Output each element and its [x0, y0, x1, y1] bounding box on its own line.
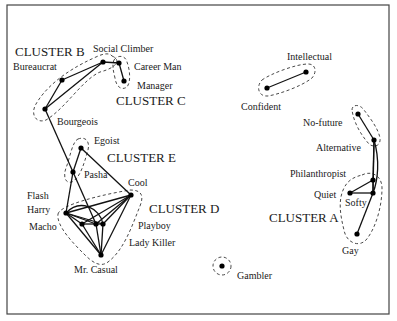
node-softy	[370, 190, 375, 195]
node-gambler	[219, 263, 224, 268]
cluster-label-cluster-a: CLUSTER A	[269, 210, 339, 225]
label-gay: Gay	[342, 245, 359, 256]
label-softy: Softy	[345, 197, 367, 208]
cluster-label-cluster-e: CLUSTER E	[107, 150, 176, 165]
cluster-label-cluster-c: CLUSTER C	[116, 93, 186, 108]
label-career-man: Career Man	[134, 61, 181, 72]
node-alternative	[371, 137, 376, 142]
node-career-man	[116, 60, 121, 65]
node-social-climber	[100, 59, 105, 64]
node-playboy	[93, 221, 98, 226]
node-no-future	[355, 111, 360, 116]
node-quiet	[347, 190, 352, 195]
edge-bureaucrat-bourgeois	[45, 80, 62, 109]
label-lady-killer: Lady Killer	[129, 237, 176, 248]
node-confident	[264, 85, 269, 90]
node-egoist	[78, 145, 83, 150]
cluster-hulls	[34, 54, 382, 275]
label-manager: Manager	[137, 80, 173, 91]
label-social-climber: Social Climber	[93, 43, 154, 54]
label-egoist: Egoist	[94, 135, 120, 146]
edge-harry-cool	[66, 195, 131, 213]
label-intellectual: Intellectual	[287, 51, 332, 62]
cluster-label-cluster-d: CLUSTER D	[149, 201, 219, 216]
label-confident: Confident	[241, 101, 281, 112]
label-cool: Cool	[128, 177, 148, 188]
label-playboy: Playboy	[138, 220, 171, 231]
edge-no-future-alternative	[358, 114, 374, 140]
node-manager	[121, 78, 126, 83]
label-harry: Harry	[27, 204, 50, 215]
node-mr-casual	[98, 252, 103, 257]
label-bourgeois: Bourgeois	[57, 116, 98, 127]
label-bureaucrat: Bureaucrat	[13, 61, 57, 72]
edge-egoist-pasha	[73, 148, 81, 172]
node-bureaucrat	[59, 77, 64, 82]
node-philanthropist	[370, 177, 375, 182]
label-philanthropist: Philanthropist	[290, 168, 346, 179]
edge-bureaucrat-social-climber	[62, 62, 103, 80]
node-pasha	[70, 169, 75, 174]
label-mr-casual: Mr. Casual	[74, 264, 118, 275]
label-pasha: Pasha	[84, 169, 108, 180]
label-alternative: Alternative	[316, 142, 362, 153]
label-gambler: Gambler	[237, 270, 273, 281]
nodes	[42, 59, 376, 268]
label-flash: Flash	[27, 190, 49, 201]
cluster-label-cluster-b: CLUSTER B	[15, 44, 85, 59]
node-intellectual	[303, 69, 308, 74]
node-harry	[63, 210, 68, 215]
label-macho: Macho	[29, 221, 57, 232]
edge-pasha-harry	[66, 172, 73, 213]
edges	[45, 62, 374, 255]
cluster-diagram: Social ClimberBureaucratCareer ManManage…	[0, 0, 397, 321]
edge-career-man-manager	[119, 63, 124, 81]
node-lady-killer	[100, 221, 105, 226]
node-cool	[128, 192, 133, 197]
node-flash	[79, 221, 84, 226]
edge-philanthropist-quiet	[350, 180, 373, 193]
node-bourgeois	[42, 106, 47, 111]
node-gay	[354, 231, 359, 236]
label-quiet: Quiet	[314, 189, 336, 200]
label-no-future: No-future	[303, 117, 343, 128]
